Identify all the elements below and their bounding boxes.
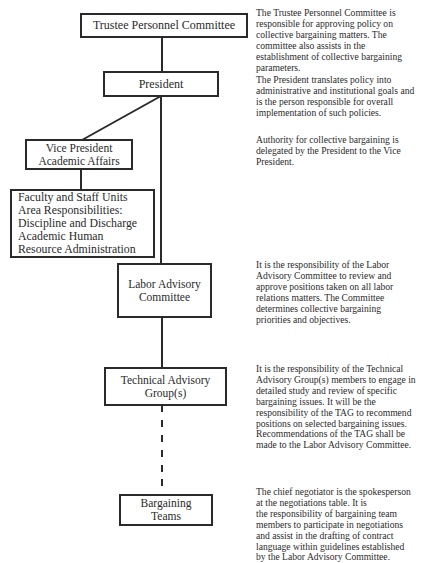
dash-segment (161, 479, 163, 486)
node-vice-president-academic-affairs: Vice President Academic Affairs (25, 139, 133, 170)
node-label: President (139, 78, 184, 91)
description-technical-advisory: It is the responsibility of the Technica… (256, 364, 438, 451)
description-line: parameters. (256, 63, 438, 74)
node-trustee-personnel-committee: Trustee Personnel Committee (80, 13, 248, 38)
node-label: Technical Advisory (121, 374, 211, 387)
description-line: members to participate in negotiations (256, 520, 438, 531)
vp-to-faculty-connector (80, 169, 82, 190)
president-to-vp-connector (82, 96, 161, 140)
node-label: Teams (151, 510, 181, 523)
dash-segment (161, 450, 163, 457)
description-line: committee also assists in the (256, 41, 438, 52)
node-label: Academic Affairs (38, 155, 119, 168)
description-line: implementation of such policies. (256, 108, 438, 119)
description-line: bargaining issues. It will be the (256, 397, 438, 408)
dash-segment (161, 405, 163, 412)
description-line: priorities and objectives. (256, 315, 438, 326)
description-line: relations matters. The Committee (256, 293, 438, 304)
description-line: President. (256, 157, 438, 168)
trustee-to-president-connector (161, 37, 163, 72)
dash-segment (161, 420, 163, 427)
description-line: establishment of collective bargaining (256, 52, 438, 63)
node-label: Committee (139, 291, 190, 304)
dash-segment (161, 465, 163, 472)
description-vice-president: Authority for collective bargaining is d… (256, 135, 438, 168)
node-labor-advisory-committee: Labor Advisory Committee (117, 263, 212, 318)
description-line: by the Labor Advisory Committee. (256, 552, 438, 563)
dash-segment (161, 435, 163, 442)
description-line: determines collective bargaining (256, 304, 438, 315)
node-bargaining-teams: Bargaining Teams (119, 494, 213, 526)
labor-to-technical-connector (161, 316, 163, 368)
node-label: Trustee Personnel Committee (93, 19, 235, 32)
node-label: Resource Administration (18, 243, 136, 256)
description-bargaining-teams: The chief negotiator is the spokesperson… (256, 487, 438, 563)
description-line: and assist in the drafting of contract (256, 531, 438, 542)
description-president: The President translates policy into adm… (256, 75, 438, 119)
node-label: Labor Advisory (128, 278, 201, 291)
node-label: Group(s) (145, 387, 187, 400)
description-labor-advisory: It is the responsibility of the Labor Ad… (256, 260, 438, 325)
president-to-labor-connector (160, 96, 162, 264)
description-line: made to the Labor Advisory Committee. (256, 440, 438, 451)
node-label: Bargaining (141, 497, 192, 510)
node-faculty-and-staff-units: Faculty and Staff Units Area Responsibil… (10, 189, 155, 258)
node-label: Vice President (46, 142, 113, 155)
node-president: President (103, 71, 219, 97)
description-trustee: The Trustee Personnel Committee is respo… (256, 8, 438, 73)
description-line: responsibility of the TAG to recommend (256, 408, 438, 419)
node-technical-advisory-groups: Technical Advisory Group(s) (104, 367, 227, 406)
